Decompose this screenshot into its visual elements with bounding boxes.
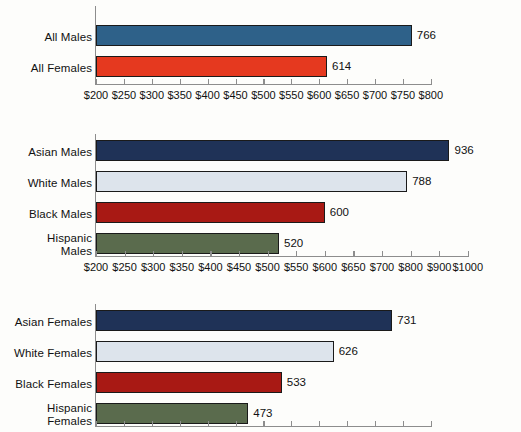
category-label-males-2: Black Males [29, 208, 92, 221]
x-tick-all-11 [403, 79, 404, 84]
x-tick-all-2 [152, 79, 153, 84]
x-tick-females-1 [124, 421, 125, 426]
x-tick-males-5 [239, 251, 240, 256]
x-tick-males-0 [96, 251, 97, 256]
x-tick-females-3 [180, 421, 181, 426]
bar-value-females-1: 626 [339, 345, 358, 357]
bar-males-1 [96, 171, 407, 192]
x-tick-all-9 [347, 79, 348, 84]
x-tick-males-11 [411, 251, 412, 256]
plot-area-females: Asian Females White Females Black Female… [0, 296, 521, 432]
bar-all-1 [96, 56, 327, 77]
bar-value-males-0: 936 [454, 144, 473, 156]
x-tick-label-males-1: $250 [112, 261, 136, 273]
category-label-females-2: Black Females [15, 378, 92, 391]
x-tick-label-all-5: $450 [223, 89, 247, 101]
x-tick-label-males-10: $700 [370, 261, 394, 273]
plot-area-all: All Males All Females 766 614 $200$250$3… [0, 0, 521, 112]
x-tick-label-all-7: $550 [279, 89, 303, 101]
x-axis-line-males [95, 256, 469, 257]
x-tick-label-males-0: $200 [84, 261, 108, 273]
x-tick-all-3 [180, 79, 181, 84]
x-tick-males-8 [325, 251, 326, 256]
chart-males: Asian Males White Males Black Males Hisp… [0, 126, 521, 282]
bar-all-0 [96, 25, 412, 46]
x-axis-line-all [95, 84, 432, 85]
x-tick-females-10 [375, 421, 376, 426]
x-tick-label-males-12: $900 [427, 261, 451, 273]
bar-value-males-1: 788 [412, 175, 431, 187]
x-tick-males-3 [182, 251, 183, 256]
x-tick-label-all-12: $800 [419, 89, 443, 101]
x-tick-females-7 [291, 421, 292, 426]
x-tick-males-10 [382, 251, 383, 256]
x-tick-males-1 [125, 251, 126, 256]
x-tick-males-7 [296, 251, 297, 256]
bar-females-2 [96, 372, 282, 393]
x-tick-label-all-0: $200 [84, 89, 108, 101]
x-tick-males-4 [210, 251, 211, 256]
x-tick-females-5 [236, 421, 237, 426]
x-tick-males-6 [268, 251, 269, 256]
bar-value-females-3: 473 [253, 407, 272, 419]
x-tick-label-all-4: $400 [195, 89, 219, 101]
bar-value-males-2: 600 [330, 206, 349, 218]
category-label-males-0: Asian Males [28, 146, 92, 159]
x-tick-label-males-7: $550 [284, 261, 308, 273]
x-tick-label-all-10: $700 [363, 89, 387, 101]
x-tick-label-males-11: $800 [398, 261, 422, 273]
x-tick-label-all-2: $300 [140, 89, 164, 101]
category-label-females-3: Hispanic Females [47, 402, 92, 427]
x-tick-label-all-3: $350 [167, 89, 191, 101]
x-tick-females-8 [319, 421, 320, 426]
x-tick-label-all-1: $250 [112, 89, 136, 101]
plot-area-males: Asian Males White Males Black Males Hisp… [0, 126, 521, 282]
bar-females-0 [96, 310, 392, 331]
bar-males-3 [96, 233, 279, 254]
x-tick-label-males-3: $350 [170, 261, 194, 273]
x-tick-males-2 [153, 251, 154, 256]
x-tick-label-males-8: $600 [313, 261, 337, 273]
x-tick-label-all-8: $600 [307, 89, 331, 101]
category-label-males-1: White Males [28, 177, 92, 190]
bar-value-all-1: 614 [332, 60, 351, 72]
x-tick-all-8 [319, 79, 320, 84]
x-tick-females-0 [96, 421, 97, 426]
category-label-males-3: Hispanic Males [47, 232, 92, 257]
x-tick-all-1 [124, 79, 125, 84]
x-tick-males-12 [439, 251, 440, 256]
x-axis-line-females [95, 426, 432, 427]
x-tick-label-all-6: $500 [251, 89, 275, 101]
bar-value-females-0: 731 [397, 314, 416, 326]
x-tick-females-12 [431, 421, 432, 426]
x-tick-males-9 [353, 251, 354, 256]
x-tick-females-6 [263, 421, 264, 426]
x-tick-label-all-9: $650 [335, 89, 359, 101]
chart-all-workers: All Males All Females 766 614 $200$250$3… [0, 0, 521, 112]
x-tick-all-5 [236, 79, 237, 84]
category-label-females-0: Asian Females [15, 316, 92, 329]
x-tick-label-males-6: $500 [255, 261, 279, 273]
x-tick-all-12 [431, 79, 432, 84]
bar-value-females-2: 533 [287, 376, 306, 388]
x-tick-females-2 [152, 421, 153, 426]
x-tick-label-males-5: $450 [227, 261, 251, 273]
x-tick-label-males-2: $300 [141, 261, 165, 273]
x-tick-males-13 [468, 251, 469, 256]
chart-females: Asian Females White Females Black Female… [0, 296, 521, 432]
x-tick-females-11 [403, 421, 404, 426]
x-tick-label-males-9: $650 [341, 261, 365, 273]
x-tick-all-7 [291, 79, 292, 84]
category-label-females-1: White Females [14, 347, 92, 360]
bar-females-1 [96, 341, 334, 362]
bar-males-0 [96, 140, 449, 161]
category-label-all-0: All Males [44, 31, 92, 44]
x-tick-all-6 [263, 79, 264, 84]
x-tick-label-males-13: $1000 [453, 261, 484, 273]
bar-males-2 [96, 202, 325, 223]
bar-value-all-0: 766 [417, 29, 436, 41]
x-tick-label-males-4: $400 [198, 261, 222, 273]
bar-females-3 [96, 403, 248, 424]
category-label-all-1: All Females [31, 62, 92, 75]
x-tick-all-0 [96, 79, 97, 84]
